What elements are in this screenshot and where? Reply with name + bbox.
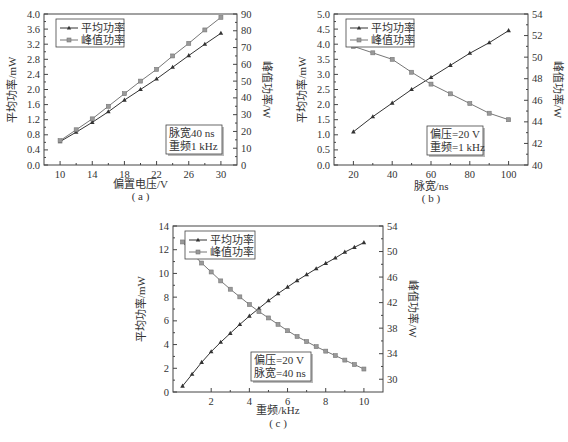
square-marker-icon xyxy=(67,38,71,42)
square-marker-icon xyxy=(74,128,78,132)
square-marker-icon xyxy=(181,240,185,244)
legend-label: 平均功率 xyxy=(371,21,415,34)
y-left-tick-label: 0.4 xyxy=(27,144,41,155)
y-left-tick-label: 1.2 xyxy=(27,114,40,125)
y-left-axis-label: 平均功率/mW xyxy=(134,275,147,342)
annotation-text: 偏压=20 V xyxy=(254,353,304,366)
y-right-tick-label: 0 xyxy=(241,160,246,171)
y-right-tick-label: 30 xyxy=(387,374,398,385)
y-left-tick-label: 3.5 xyxy=(317,54,330,65)
x-tick-label: 20 xyxy=(348,169,359,180)
square-marker-icon xyxy=(295,334,299,338)
square-marker-icon xyxy=(228,287,232,291)
x-tick-label: 100 xyxy=(501,169,517,180)
square-marker-icon xyxy=(362,367,366,371)
square-marker-icon xyxy=(200,261,204,265)
x-tick-label: 40 xyxy=(387,169,398,180)
square-marker-icon xyxy=(390,57,394,61)
y-left-tick-label: 0.8 xyxy=(27,129,40,140)
triangle-marker-icon xyxy=(170,65,175,69)
y-left-tick-label: 6 xyxy=(164,315,169,326)
y-right-tick-label: 20 xyxy=(241,126,252,137)
triangle-marker-icon xyxy=(362,240,367,244)
x-axis-label: 偏置电压/V xyxy=(113,177,168,190)
square-marker-icon xyxy=(286,329,290,333)
y-right-tick-label: 42 xyxy=(387,297,398,308)
square-marker-icon xyxy=(357,38,361,42)
square-marker-icon xyxy=(343,358,347,362)
triangle-marker-icon xyxy=(390,101,395,105)
square-marker-icon xyxy=(352,363,356,367)
square-marker-icon xyxy=(257,310,261,314)
y-left-tick-label: 1.6 xyxy=(27,99,40,110)
x-tick-label: 10 xyxy=(359,396,370,407)
square-marker-icon xyxy=(122,92,126,96)
y-right-tick-label: 42 xyxy=(532,138,543,149)
y-right-tick-label: 54 xyxy=(387,221,398,232)
y-right-tick-label: 50 xyxy=(241,76,252,87)
figure-caption: ( a ) xyxy=(132,190,150,203)
y-left-tick-label: 4.5 xyxy=(317,24,330,35)
square-marker-icon xyxy=(507,118,511,122)
x-tick-label: 26 xyxy=(184,169,195,180)
y-left-axis-label: 平均功率/mW xyxy=(295,56,308,123)
y-left-tick-label: 14 xyxy=(159,221,170,232)
y-right-axis-label: 峰值功率/W xyxy=(407,280,420,338)
square-marker-icon xyxy=(410,70,414,74)
square-marker-icon xyxy=(448,92,452,96)
triangle-marker-icon xyxy=(122,98,127,102)
y-left-tick-label: 4.0 xyxy=(317,39,330,50)
annotation-text: 脉宽40 ns xyxy=(169,126,215,139)
square-marker-icon xyxy=(139,79,143,83)
triangle-marker-icon xyxy=(186,53,191,57)
y-right-tick-label: 40 xyxy=(241,92,252,103)
chart-b-pulse-width: 204060801000.00.51.01.52.02.53.03.54.04.… xyxy=(295,9,565,206)
x-tick-label: 80 xyxy=(465,169,476,180)
y-left-tick-label: 1.0 xyxy=(317,129,330,140)
y-right-tick-label: 70 xyxy=(241,42,252,53)
square-marker-icon xyxy=(171,54,175,58)
chart-c-repetition-rate: 2468100246810121430343842465054平均功率/mW峰值… xyxy=(134,221,420,431)
square-marker-icon xyxy=(203,28,207,32)
y-right-tick-label: 40 xyxy=(532,160,543,171)
square-marker-icon xyxy=(196,250,200,254)
triangle-marker-icon xyxy=(203,42,208,46)
annotation-text: 脉宽=40 ns xyxy=(254,366,306,379)
y-right-axis-label: 峰值功率/W xyxy=(552,61,565,119)
y-left-tick-label: 10 xyxy=(159,268,170,279)
triangle-marker-icon xyxy=(276,291,281,295)
y-left-tick-label: 2 xyxy=(164,363,169,374)
triangle-marker-icon xyxy=(138,87,143,91)
chart-a-bias-voltage: 1014182226300.00.40.81.21.62.02.42.83.23… xyxy=(5,9,274,204)
figure-canvas: 1014182226300.00.40.81.21.62.02.42.83.23… xyxy=(0,0,568,442)
square-marker-icon xyxy=(429,82,433,86)
y-right-tick-label: 80 xyxy=(241,25,252,36)
y-left-tick-label: 12 xyxy=(159,244,170,255)
y-left-tick-label: 2.0 xyxy=(317,99,330,110)
square-marker-icon xyxy=(90,117,94,121)
legend-label: 峰值功率 xyxy=(81,33,125,46)
y-left-tick-label: 4 xyxy=(164,339,170,350)
square-marker-icon xyxy=(155,67,159,71)
y-right-tick-label: 44 xyxy=(532,116,543,127)
square-marker-icon xyxy=(219,279,223,283)
x-axis-label: 脉宽/ns xyxy=(414,179,449,192)
y-right-tick-label: 50 xyxy=(532,52,543,63)
legend-label: 峰值功率 xyxy=(210,245,254,258)
square-marker-icon xyxy=(187,41,191,45)
triangle-marker-icon xyxy=(154,76,159,80)
y-left-tick-label: 3.6 xyxy=(27,24,40,35)
square-marker-icon xyxy=(487,111,491,115)
y-right-tick-label: 90 xyxy=(241,9,252,20)
square-marker-icon xyxy=(468,102,472,106)
triangle-marker-icon xyxy=(106,109,111,113)
y-right-tick-label: 30 xyxy=(241,109,252,120)
y-right-tick-label: 46 xyxy=(387,272,398,283)
x-tick-label: 2 xyxy=(209,396,214,407)
x-tick-label: 14 xyxy=(87,169,98,180)
x-axis-label: 重频/kHz xyxy=(256,403,300,416)
y-left-tick-label: 5.0 xyxy=(317,9,330,20)
square-marker-icon xyxy=(324,349,328,353)
square-marker-icon xyxy=(106,104,110,108)
square-marker-icon xyxy=(238,295,242,299)
